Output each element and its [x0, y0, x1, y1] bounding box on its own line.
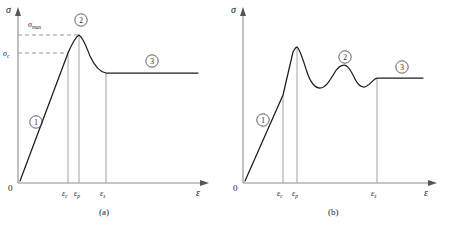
epsilon-s-tick-label-a: εs: [100, 189, 105, 199]
epsilon-c-tick-label-a: εc: [62, 189, 68, 199]
x-axis-label-a: ε: [196, 187, 200, 198]
stress-strain-curve-b: [245, 47, 423, 181]
stage-marker-2-label-b: 2: [343, 53, 347, 62]
y-axis-label-b: σ: [231, 4, 237, 15]
y-axis-arrowhead-b: [240, 7, 246, 16]
sigma-max-label-a: σmax: [28, 20, 42, 30]
x-axis-arrowhead-b: [428, 180, 437, 186]
origin-label-b: 0: [233, 183, 238, 193]
x-axis-arrowhead-a: [200, 180, 209, 186]
stage-marker-2-a: 2: [75, 14, 87, 26]
stage-marker-2-b: 2: [339, 51, 351, 63]
origin-label-a: 0: [8, 183, 13, 193]
stage-marker-1-label-a: 1: [34, 118, 38, 127]
chart-a-svg: σ ε 0 σmax σc 1 2: [0, 0, 225, 225]
y-axis-arrowhead-a: [15, 7, 21, 16]
stage-marker-3-b: 3: [396, 61, 408, 73]
caption-b: (b): [328, 207, 339, 217]
caption-a: (a): [99, 207, 109, 217]
stage-marker-1-b: 1: [257, 114, 269, 126]
sigma-c-label-a: σc: [3, 49, 10, 59]
stage-marker-1-label-b: 1: [261, 116, 265, 125]
epsilon-p-tick-label-a: εp: [74, 189, 80, 199]
stage-marker-1-a: 1: [30, 116, 42, 128]
chart-panel-a: σ ε 0 σmax σc 1 2: [0, 0, 225, 225]
chart-panel-b: σ ε 0 1 2 3 εc εp: [225, 0, 450, 225]
y-axis-label-a: σ: [6, 4, 12, 15]
x-axis-label-b: ε: [424, 187, 428, 198]
stage-marker-3-label-a: 3: [150, 57, 154, 66]
stage-marker-3-a: 3: [146, 55, 158, 67]
stress-strain-curve-a: [20, 35, 198, 181]
stage-marker-2-label-a: 2: [79, 16, 83, 25]
epsilon-c-tick-label-b: εc: [277, 189, 283, 199]
stage-marker-3-label-b: 3: [400, 63, 404, 72]
epsilon-s-tick-label-b: εs: [371, 189, 376, 199]
figure-root: σ ε 0 σmax σc 1 2: [0, 0, 450, 225]
chart-b-svg: σ ε 0 1 2 3 εc εp: [225, 0, 450, 225]
epsilon-p-tick-label-b: εp: [292, 189, 298, 199]
